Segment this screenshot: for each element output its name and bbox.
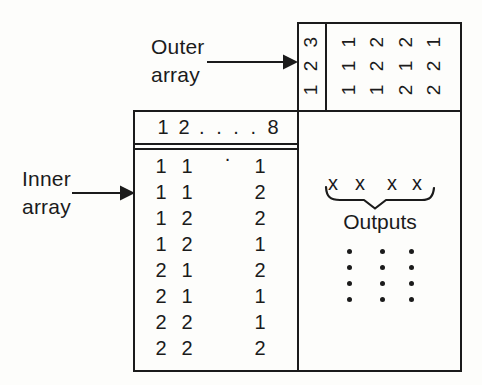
ellipsis-dot [409, 297, 414, 302]
ellipsis-dot [347, 265, 352, 270]
cell: 2 [178, 309, 196, 335]
header-rule-bottom [133, 148, 299, 150]
inner-array-rows: 1 1 1 1 1 2 1 2 2 1 2 1 2 1 2 [135, 153, 297, 361]
output-x-mark-1: x [323, 171, 343, 195]
ellipsis-dot [380, 281, 385, 286]
cell: 1 [152, 205, 170, 231]
cell: 2 [251, 205, 269, 231]
ellipsis-dot [380, 249, 385, 254]
outer-array-run-1: 1 1 1 [339, 24, 359, 108]
outer-array-run-2: 1 2 2 [367, 24, 387, 108]
cell: 2 [251, 335, 269, 361]
ellipsis-dot [409, 249, 414, 254]
cell: 2 [152, 283, 170, 309]
inner-array-row-4: 1 2 1 [135, 231, 297, 257]
inner-array-row-8: 2 2 2 [135, 335, 297, 361]
cell: 2 [251, 179, 269, 205]
inner-header-col-2: 2 [175, 114, 193, 141]
cell: 1 [251, 231, 269, 257]
cell: 2 [152, 309, 170, 335]
inner-array-row-6: 2 1 1 [135, 283, 297, 309]
cell: 2 [251, 257, 269, 283]
outer-array-label-line2: array [151, 61, 205, 89]
outer-array-label-line1: Outer [151, 33, 205, 61]
cell: 1 [152, 179, 170, 205]
cell: 1 [178, 179, 196, 205]
outer-array-label: Outer array [151, 33, 205, 89]
ellipsis-dot [409, 265, 414, 270]
outer-array-row-numbers: 1 2 3 [301, 24, 321, 108]
inner-array-label-line1: Inner [22, 165, 71, 193]
cell: 2 [178, 205, 196, 231]
cell: 1 [251, 283, 269, 309]
crossed-array-diagram: Outer array Inner array 1 2 3 1 1 1 1 2 … [0, 0, 482, 385]
ellipsis-dot [380, 297, 385, 302]
inner-array-header-row: 1 2 . . . . . 8 [135, 112, 297, 143]
ellipsis-dot [409, 281, 414, 286]
continuation-dots-column [380, 249, 385, 302]
cell: 1 [178, 257, 196, 283]
ellipsis-dot [347, 249, 352, 254]
inner-array-row-5: 2 1 2 [135, 257, 297, 283]
outer-array-arrow-icon [207, 55, 298, 70]
cell: 2 [178, 335, 196, 361]
continuation-dots-column [409, 249, 414, 302]
cell: 1 [251, 309, 269, 335]
cell: 1 [152, 231, 170, 257]
inner-array-row-7: 2 2 1 [135, 309, 297, 335]
inner-array-arrow-icon [72, 186, 135, 201]
outputs-panel: x x x x Outputs [297, 110, 462, 372]
inner-header-col-1: 1 [154, 114, 172, 141]
inner-array-row-1: 1 1 1 [135, 153, 297, 179]
output-x-mark-3: x [382, 171, 402, 195]
ellipsis-dot [380, 265, 385, 270]
outputs-label: Outputs [315, 209, 445, 235]
ellipsis-dot [347, 297, 352, 302]
output-x-mark-2: x [350, 171, 370, 195]
outer-array-box: 1 2 3 1 1 1 1 2 2 2 1 2 2 2 1 [297, 22, 462, 112]
output-x-mark-4: x [407, 171, 427, 195]
cell: 2 [152, 257, 170, 283]
inner-array-row-2: 1 1 2 [135, 179, 297, 205]
outer-array-run-3: 2 1 2 [396, 24, 416, 108]
ellipsis-dot [347, 281, 352, 286]
inner-array-row-3: 1 2 2 [135, 205, 297, 231]
inner-array-label: Inner array [22, 165, 71, 221]
header-rule-top [133, 143, 299, 145]
outer-array-run-4: 2 2 1 [424, 24, 444, 108]
inner-array-box: 1 2 . . . . . 8 1 1 1 1 1 2 1 2 2 [133, 110, 299, 372]
cell: 1 [251, 153, 269, 179]
inner-array-label-line2: array [22, 193, 71, 221]
cell: 1 [178, 283, 196, 309]
continuation-dots-column [347, 249, 352, 302]
cell: 2 [152, 335, 170, 361]
cell: 2 [178, 231, 196, 257]
cell: 1 [152, 153, 170, 179]
inner-header-col-8: 8 [264, 114, 282, 141]
cell: 1 [178, 153, 196, 179]
